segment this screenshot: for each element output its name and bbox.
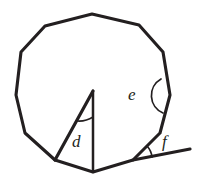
angle-label-f: f — [162, 132, 169, 151]
geometry-figure: Polygon with marked angles d, e and f d … — [0, 0, 198, 193]
angle-label-d: d — [72, 132, 81, 151]
angle-label-e: e — [128, 85, 136, 104]
figure-canvas: Polygon with marked angles d, e and f d … — [0, 0, 198, 193]
